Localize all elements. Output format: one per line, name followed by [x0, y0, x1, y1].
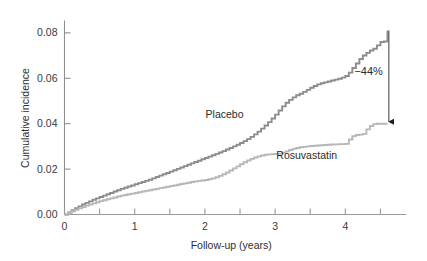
y-tick-label: 0.08	[37, 26, 58, 38]
x-tick-label: 4	[342, 220, 348, 232]
x-tick-label: 1	[132, 220, 138, 232]
y-tick-label: 0.04	[37, 117, 58, 129]
series-curves	[65, 31, 388, 215]
x-axis-title: Follow-up (years)	[191, 239, 272, 251]
series-line-placebo	[65, 31, 388, 215]
x-minor-tick-marks	[100, 209, 381, 215]
y-axis-title: Cumulative incidence	[19, 68, 31, 168]
cumulative-incidence-chart: 0.000.020.040.060.08 01234 PlaceboRosuva…	[0, 0, 427, 261]
series-label-placebo: Placebo	[206, 108, 244, 120]
series-label-rosuvastatin: Rosuvastatin	[276, 149, 337, 161]
x-axis: 01234	[62, 209, 406, 232]
x-tick-label: 3	[272, 220, 278, 232]
reduction-label: −44%	[354, 65, 383, 77]
y-tick-labels: 0.000.020.040.060.08	[37, 26, 58, 220]
x-tick-label: 0	[62, 220, 68, 232]
x-tick-label: 2	[202, 220, 208, 232]
x-tick-marks	[65, 209, 346, 215]
y-tick-label: 0.00	[37, 208, 58, 220]
y-tick-label: 0.06	[37, 72, 58, 84]
series-line-rosuvastatin	[65, 124, 388, 215]
x-tick-labels: 01234	[62, 220, 349, 232]
y-axis: 0.000.020.040.060.08	[37, 21, 70, 221]
y-tick-label: 0.02	[37, 163, 58, 175]
chart-figure: 0.000.020.040.060.08 01234 PlaceboRosuva…	[0, 0, 427, 261]
y-tick-marks	[65, 33, 71, 215]
series-inline-labels: PlaceboRosuvastatin	[206, 108, 338, 161]
reduction-annotation: −44%	[354, 31, 388, 122]
